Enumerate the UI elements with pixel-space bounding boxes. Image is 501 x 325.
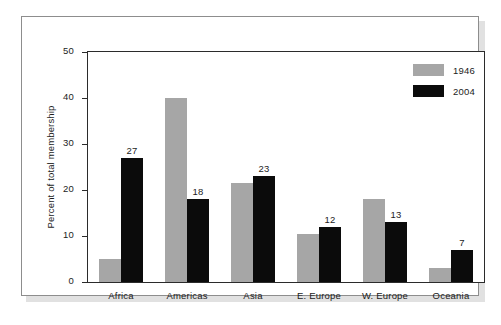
bar-value-label: 23 [244,163,284,174]
bar-americas-2004 [187,199,209,282]
bar-value-label: 13 [376,209,416,220]
bar-e-europe-2004 [319,227,341,282]
y-axis-tick-label: 20 [63,183,74,194]
bar-w-europe-2004 [385,222,407,282]
y-axis-tick-label: 40 [63,91,74,102]
bar-africa-1946 [99,259,121,282]
bar-value-label: 18 [178,186,218,197]
figure-outer-frame: Percent of total membership 01020304050 … [21,16,479,296]
bar-value-label: 7 [442,237,482,248]
bar-asia-1946 [231,183,253,282]
legend-swatch-2004-icon [413,85,444,97]
plot-inner-surface: 27182312137 1946 2004 [88,52,484,282]
legend-swatch-1946-icon [413,64,444,76]
y-axis-label: Percent of total membership [45,106,56,229]
bar-oceania-2004 [451,250,473,282]
figure-canvas: Percent of total membership 01020304050 … [0,0,501,325]
legend-label-2004: 2004 [453,86,475,97]
bar-africa-2004 [121,158,143,282]
y-axis-tick-label: 10 [63,229,74,240]
plot-area: 27182312137 1946 2004 [87,51,485,283]
y-axis-tick-label: 50 [63,45,74,56]
x-axis-tick-label: Oceania [406,290,496,301]
legend-label-1946: 1946 [453,65,475,76]
bar-value-label: 12 [310,214,350,225]
y-axis-tick-label: 0 [69,275,74,286]
bar-e-europe-1946 [297,234,319,282]
bar-value-label: 27 [112,145,152,156]
bar-asia-2004 [253,176,275,282]
bar-oceania-1946 [429,268,451,282]
y-axis-tick-label: 30 [63,137,74,148]
